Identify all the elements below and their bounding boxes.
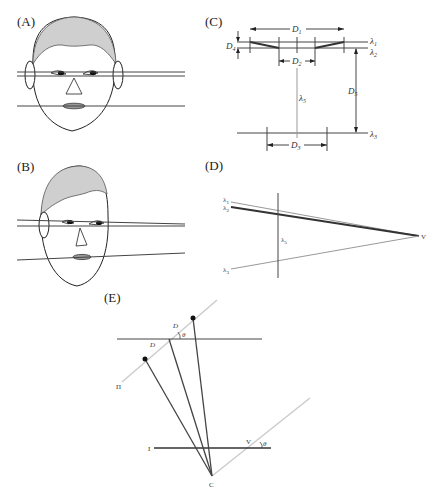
left-pupil [58, 71, 64, 75]
panel-a-label: (A) [17, 14, 35, 29]
vanishing-line [212, 398, 310, 476]
lambda2-label: λ2 [223, 204, 229, 213]
lambda3-label: λ3 [223, 266, 229, 275]
lambda3-label: λ3 [369, 129, 377, 140]
d-lower-label: D [149, 341, 155, 349]
ray-right [193, 318, 212, 476]
right-pupil [90, 71, 96, 75]
left-pupil [67, 220, 73, 224]
center-label: C [209, 481, 214, 489]
left-ear [25, 61, 35, 89]
point-left [143, 357, 148, 362]
panel-d: (D) λ1 λ2 λ3 λ5 V [205, 158, 426, 278]
lambda2-line [231, 207, 419, 236]
panel-b-label: (B) [17, 159, 34, 174]
picture-plane-label: Π [116, 383, 121, 391]
arrowhead [236, 37, 240, 42]
lambda5-label: λ5 [298, 93, 306, 104]
d-upper-label: D [172, 322, 178, 330]
point-right [191, 316, 196, 321]
ear [39, 212, 49, 238]
panel-a: (A) [17, 14, 185, 131]
arrowhead [236, 48, 240, 53]
lambda3-line [231, 236, 419, 269]
ray-middle [169, 339, 212, 476]
right-ear [113, 61, 123, 89]
panel-c-label: (C) [205, 14, 222, 29]
panel-d-label: (D) [205, 158, 223, 173]
d4-label: D4 [225, 41, 236, 52]
theta-upper-label: θ [182, 331, 186, 339]
lambda2-label: λ2 [369, 47, 377, 58]
right-eye-contour [315, 42, 344, 48]
panel-c: (C) D1 D2 D3 D4 [205, 14, 377, 151]
theta-arc-upper [178, 332, 180, 339]
theta-lower-label: θ [263, 440, 267, 448]
figure-canvas: (A) (B) (C) [0, 0, 436, 503]
image-line-label: I [148, 445, 151, 453]
panel-b: (B) [17, 159, 185, 286]
lambda5-label: λ5 [281, 236, 287, 245]
vanishing-point-label: V [421, 233, 426, 241]
panel-e-label: (E) [104, 290, 121, 305]
lambda1-label: λ1 [369, 36, 377, 47]
theta-arc-lower [260, 442, 262, 448]
vanishing-point-label: V [246, 438, 251, 446]
panel-e: (E) Π D D θ θ I V C [104, 290, 310, 489]
ray-left [145, 359, 212, 476]
left-eye-contour [250, 42, 279, 48]
